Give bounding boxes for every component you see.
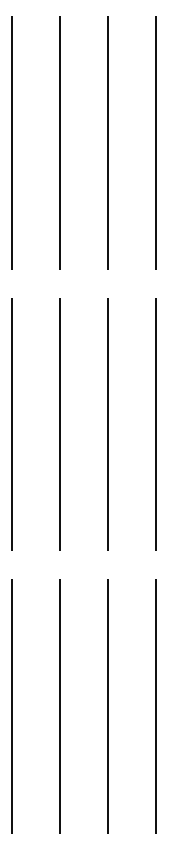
vertical-bar	[59, 298, 61, 551]
bar-group-2	[0, 298, 172, 551]
vertical-bar	[107, 16, 109, 270]
vertical-bar	[59, 579, 61, 834]
bar-group-3	[0, 579, 172, 834]
bar-group-1	[0, 16, 172, 270]
vertical-bar	[107, 298, 109, 551]
vertical-bar	[155, 16, 157, 270]
vertical-bar	[107, 579, 109, 834]
vertical-bar	[11, 298, 13, 551]
vertical-bar	[155, 298, 157, 551]
vertical-bar	[11, 579, 13, 834]
vertical-bar	[155, 579, 157, 834]
vertical-bar	[11, 16, 13, 270]
vertical-bar	[59, 16, 61, 270]
